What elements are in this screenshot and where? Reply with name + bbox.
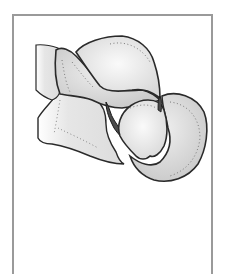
bone-fragments-illustration <box>0 0 226 270</box>
